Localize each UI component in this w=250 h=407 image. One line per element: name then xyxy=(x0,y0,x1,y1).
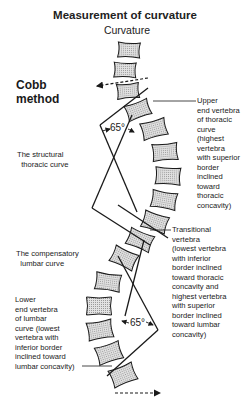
lower-end-vertebra-label: Lower end vertebra of lumbar curve (lowe… xyxy=(15,295,75,371)
vertebra xyxy=(124,98,152,121)
vertebra xyxy=(155,167,181,185)
thoracic-perpendicular-1 xyxy=(100,125,137,212)
vertebra xyxy=(87,297,112,315)
vertebra xyxy=(152,142,178,161)
vertebra xyxy=(94,341,123,366)
vertebra xyxy=(114,62,137,78)
vertebra xyxy=(108,362,138,388)
lumbar-angle-label: 65° xyxy=(130,317,145,328)
vertebra xyxy=(118,42,141,58)
vertebra xyxy=(94,272,121,292)
thoracic-angle-label: 65° xyxy=(110,122,125,133)
upper-end-vertebra-label: Upper end vertebra of thoracic curve (hi… xyxy=(197,96,240,210)
vertebra xyxy=(125,227,155,252)
vertebra xyxy=(140,118,169,141)
vertebra xyxy=(150,189,178,210)
transitional-vertebra-label: Transitional vertebra (lowest vertebra w… xyxy=(172,225,226,339)
compensatory-curve-label: The compensatory lumbar curve xyxy=(16,249,79,268)
structural-curve-label: The structural thoracic curve xyxy=(17,150,69,169)
vertebra xyxy=(86,319,114,341)
